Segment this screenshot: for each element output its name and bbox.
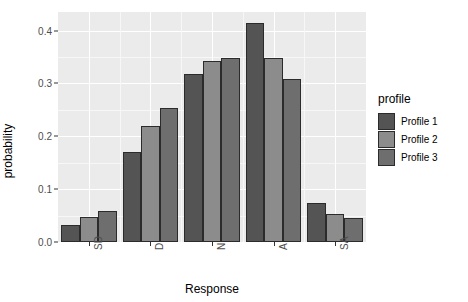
x-tick-label: SD xyxy=(93,236,104,250)
x-tick-mark xyxy=(335,242,336,246)
chart-container: probability 0.00.10.20.30.4 SDDNASA Resp… xyxy=(0,0,468,302)
legend-swatch xyxy=(378,113,395,130)
legend-item[interactable]: Profile 3 xyxy=(378,148,466,166)
legend-item[interactable]: Profile 2 xyxy=(378,130,466,148)
bar xyxy=(141,126,159,242)
x-axis: SDDNASA xyxy=(58,242,366,286)
x-tick-label: N xyxy=(216,243,227,250)
bar xyxy=(246,23,264,242)
legend-swatch xyxy=(378,149,395,166)
legend-items: Profile 1Profile 2Profile 3 xyxy=(378,112,466,166)
x-tick-label: SA xyxy=(339,237,350,250)
y-tick-label: 0.0 xyxy=(38,237,52,248)
x-tick-mark xyxy=(274,242,275,246)
bar xyxy=(123,152,141,242)
y-tick-label: 0.3 xyxy=(38,78,52,89)
bar xyxy=(221,58,239,242)
x-tick-mark xyxy=(89,242,90,246)
x-tick-label: A xyxy=(278,243,289,250)
bar xyxy=(307,203,325,242)
bar xyxy=(264,58,282,242)
legend-label: Profile 3 xyxy=(401,152,438,163)
bar xyxy=(61,225,79,242)
legend-label: Profile 1 xyxy=(401,116,438,127)
legend-swatch xyxy=(378,131,395,148)
bars-layer xyxy=(58,12,366,242)
legend-label: Profile 2 xyxy=(401,134,438,145)
bar xyxy=(184,74,202,242)
y-tick-label: 0.2 xyxy=(38,131,52,142)
y-tick-label: 0.1 xyxy=(38,184,52,195)
bar xyxy=(203,61,221,242)
legend: profile Profile 1Profile 2Profile 3 xyxy=(378,92,466,166)
y-axis: 0.00.10.20.30.4 xyxy=(0,0,58,302)
bar xyxy=(160,108,178,242)
x-tick-label: D xyxy=(154,243,165,250)
legend-title: profile xyxy=(378,92,466,106)
x-tick-mark xyxy=(212,242,213,246)
plot-panel xyxy=(58,12,366,242)
x-axis-title: Response xyxy=(58,282,366,296)
legend-item[interactable]: Profile 1 xyxy=(378,112,466,130)
x-tick-mark xyxy=(150,242,151,246)
bar xyxy=(283,79,301,242)
y-tick-label: 0.4 xyxy=(38,25,52,36)
